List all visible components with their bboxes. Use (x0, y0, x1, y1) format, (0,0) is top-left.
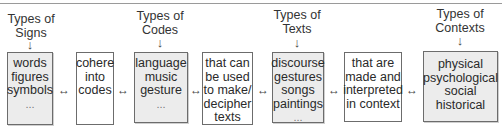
box-text: to make/ (204, 84, 252, 98)
box-cohere-into-codes: cohere into codes (76, 52, 114, 125)
label-types-of-signs: Types of Signs (2, 12, 60, 40)
box-text: made and (345, 71, 401, 85)
box-codes: language music gesture ... (134, 52, 188, 123)
box-make-decipher-texts: that can be used to make/ decipher texts (202, 52, 253, 125)
box-contexts: physical psychological social historical (423, 51, 498, 122)
box-text: historical (436, 99, 485, 113)
ellipsis: ... (156, 98, 165, 112)
box-signs: words figures symbols ... (7, 52, 53, 125)
label-types-of-texts: Types of Texts (268, 8, 326, 36)
box-text: texts (214, 111, 240, 125)
box-texts: discourse gestures songs paintings ... (272, 52, 324, 123)
box-text: social (445, 85, 477, 99)
box-text: paintings (273, 98, 323, 112)
bidirectional-arrow-icon: ↔ (190, 84, 202, 96)
label-types-of-codes: Types of Codes (131, 9, 189, 37)
box-text: words (13, 57, 46, 71)
top-rule (0, 3, 502, 4)
box-text: figures (11, 71, 49, 85)
box-text: that can (205, 57, 249, 71)
bidirectional-arrow-icon: ↔ (328, 84, 340, 96)
box-text: psychological (423, 72, 498, 86)
down-arrow-icon: ↓ (152, 36, 168, 50)
down-arrow-icon: ↓ (22, 38, 38, 52)
label-types-of-contexts: Types of Contexts (428, 7, 492, 35)
box-text: into (85, 71, 105, 85)
box-text: gesture (140, 84, 182, 98)
label-line: Types of (436, 7, 483, 21)
box-text: that are (352, 57, 394, 71)
ellipsis: ... (293, 111, 302, 125)
box-text: be used (205, 71, 249, 85)
bidirectional-arrow-icon: ↔ (406, 84, 418, 96)
bidirectional-arrow-icon: ↔ (257, 84, 269, 96)
box-text: interpreted (343, 84, 403, 98)
bidirectional-arrow-icon: ↔ (117, 84, 129, 96)
box-text: codes (78, 84, 111, 98)
down-arrow-icon: ↓ (452, 34, 468, 48)
box-text: decipher (204, 98, 252, 112)
label-line: Types of (273, 8, 320, 22)
box-text: songs (281, 84, 314, 98)
box-text: physical (438, 58, 483, 72)
label-line: Types of (7, 12, 54, 26)
box-text: music (145, 71, 178, 85)
box-text: symbols (7, 84, 53, 98)
ellipsis: ... (25, 98, 34, 112)
down-arrow-icon: ↓ (289, 36, 305, 50)
box-text: gestures (274, 71, 322, 85)
box-text: cohere (76, 57, 114, 71)
box-text: discourse (271, 57, 325, 71)
box-made-interpreted-in-context: that are made and interpreted in context (344, 52, 402, 122)
box-text: language (135, 57, 186, 71)
label-line: Texts (282, 22, 311, 36)
box-text: in context (346, 98, 400, 112)
label-line: Types of (136, 9, 183, 23)
bidirectional-arrow-icon: ↔ (58, 84, 70, 96)
